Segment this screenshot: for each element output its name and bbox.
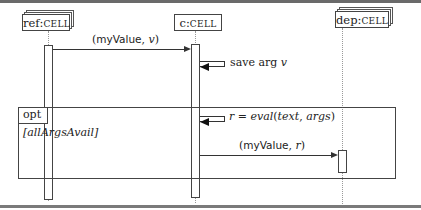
message-label-save-arg: save arg v — [230, 56, 287, 69]
message-arrow-line — [53, 49, 184, 50]
message-label-myvalue-r: (myValue, r) — [239, 139, 305, 152]
filled-arrowhead-icon — [200, 63, 209, 71]
participant-ref-cell: ref:CELL — [22, 14, 70, 31]
participant-class: CELL — [190, 19, 217, 29]
arrowhead-icon — [331, 152, 338, 158]
participant-name: dep: — [336, 13, 361, 27]
bottom-rule — [0, 205, 421, 208]
participant-c-cell: c:CELL — [174, 14, 222, 31]
participant-dep-cell: dep:CELL — [335, 11, 389, 28]
filled-arrowhead-icon — [200, 118, 209, 126]
participant-name: c: — [180, 16, 190, 30]
participant-class: CELL — [43, 19, 70, 29]
fragment-guard: [allArgsAvail] — [23, 126, 98, 139]
message-label-eval: r = eval(text, args) — [229, 110, 335, 123]
top-rule — [0, 0, 421, 3]
message-label-myvalue-v: (myValue, v) — [92, 33, 159, 46]
participant-class: CELL — [361, 16, 388, 26]
fragment-operator: opt — [19, 108, 48, 124]
message-arrow-line — [200, 155, 331, 156]
participant-name: ref: — [23, 16, 43, 30]
arrowhead-icon — [184, 46, 191, 52]
